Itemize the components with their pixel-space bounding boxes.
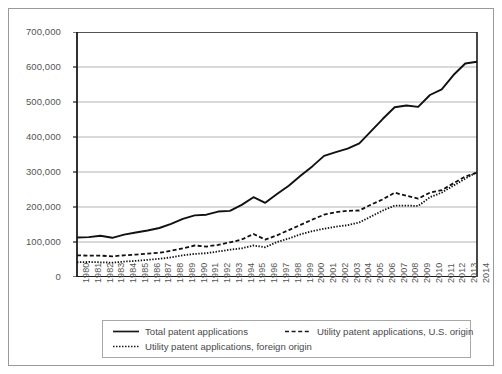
legend-swatch-solid-line-icon [113, 327, 139, 336]
y-axis-tick-label: 500,000 [9, 96, 61, 107]
x-axis-tick-label: 1987 [163, 263, 173, 283]
x-axis-tick-label: 1993 [234, 263, 244, 283]
legend-item-total: Total patent applications [113, 326, 248, 337]
x-axis-tick-label: 1983 [116, 263, 126, 283]
y-axis-tick-label: 300,000 [9, 166, 61, 177]
x-axis-tick-label: 2003 [352, 263, 362, 283]
chart-figure: 0100,000200,000300,000400,000500,000600,… [8, 8, 494, 366]
x-axis-tick-label: 1995 [257, 263, 267, 283]
y-axis-tick-label: 100,000 [9, 236, 61, 247]
y-axis-tick-label: 600,000 [9, 61, 61, 72]
legend-item-foreign-origin: Utility patent applications, foreign ori… [113, 341, 312, 352]
x-axis-tick-label: 1989 [187, 263, 197, 283]
x-axis-tick-label: 1999 [305, 263, 315, 283]
x-axis-tick-label: 2002 [340, 263, 350, 283]
x-axis-tick-label: 1980 [81, 263, 91, 283]
x-axis-tick-label: 1992 [222, 263, 232, 283]
y-axis-tick-label: 700,000 [9, 26, 61, 37]
y-axis-tick-label: 200,000 [9, 201, 61, 212]
legend-item-us-origin: Utility patent applications, U.S. origin [285, 326, 473, 337]
x-axis-tick-label: 1988 [175, 263, 185, 283]
x-axis-tick-label: 2013 [469, 263, 479, 283]
x-axis-tick-label: 2011 [446, 263, 456, 283]
legend-swatch-dotted-line-icon [113, 342, 139, 351]
x-axis-tick-label: 2001 [328, 263, 338, 283]
x-axis-tick-label: 2009 [422, 263, 432, 283]
x-axis-tick-label: 1985 [140, 263, 150, 283]
x-axis-tick-label: 2010 [434, 263, 444, 283]
legend-label-total: Total patent applications [145, 326, 248, 337]
x-axis-tick-label: 2005 [375, 263, 385, 283]
x-axis-tick-label: 1998 [293, 263, 303, 283]
x-axis-tick-label: 1991 [210, 263, 220, 283]
x-axis-tick-label: 1997 [281, 263, 291, 283]
x-axis-tick-label: 2006 [387, 263, 397, 283]
x-axis-tick-label: 1986 [152, 263, 162, 283]
x-axis-tick-label: 2004 [363, 263, 373, 283]
x-axis-tick-label: 2007 [399, 263, 409, 283]
x-axis-tick-label: 1984 [128, 263, 138, 283]
legend-label-us-origin: Utility patent applications, U.S. origin [317, 326, 473, 337]
x-axis-tick-label: 1994 [246, 263, 256, 283]
x-axis-tick-label: 2000 [316, 263, 326, 283]
legend-label-foreign-origin: Utility patent applications, foreign ori… [145, 341, 312, 352]
y-axis-tick-label: 0 [9, 271, 61, 282]
x-axis-tick-label: 1996 [269, 263, 279, 283]
x-axis-tick-label: 1981 [93, 263, 103, 283]
chart-legend: Total patent applications Utility patent… [102, 320, 471, 358]
x-axis-tick-label: 1990 [199, 263, 209, 283]
x-axis-tick-label: 2012 [457, 263, 467, 283]
y-axis-tick-label: 400,000 [9, 131, 61, 142]
x-axis-tick-label: 1982 [105, 263, 115, 283]
legend-swatch-dashed-line-icon [285, 327, 311, 336]
x-axis-tick-label: 2008 [410, 263, 420, 283]
x-axis-tick-label: 2014 [481, 263, 491, 283]
plot-area [69, 32, 478, 277]
chart-canvas [69, 32, 478, 277]
